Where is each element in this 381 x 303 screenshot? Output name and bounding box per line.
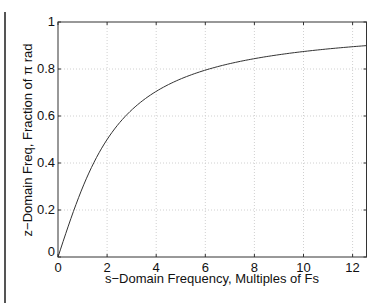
- svg-text:0.2: 0.2: [37, 202, 55, 217]
- svg-text:0.8: 0.8: [37, 61, 55, 76]
- chart: 024681012 00.20.40.60.81 s−Domain Freque…: [0, 0, 381, 303]
- svg-text:1: 1: [48, 14, 55, 29]
- y-axis-label: z−Domain Freq, Fraction of π rad: [20, 44, 35, 237]
- y-tick-labels: 00.20.40.60.81: [37, 14, 55, 259]
- plot-area: [58, 22, 367, 257]
- data-line: [58, 46, 367, 257]
- svg-text:12: 12: [345, 260, 359, 275]
- x-axis-label: s−Domain Frequency, Multiples of Fs: [105, 271, 319, 286]
- svg-text:0: 0: [54, 260, 61, 275]
- axis-ticks: [58, 22, 367, 257]
- svg-text:0.4: 0.4: [37, 155, 55, 170]
- grid-lines: [58, 22, 367, 257]
- svg-text:0.6: 0.6: [37, 108, 55, 123]
- svg-text:0: 0: [48, 244, 55, 259]
